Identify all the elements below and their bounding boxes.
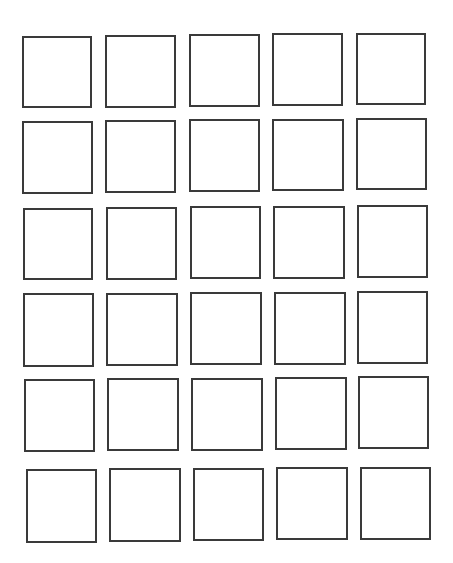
square-r4-c3 — [190, 292, 262, 365]
square-r6-c3 — [193, 468, 264, 541]
square-r4-c4 — [274, 292, 346, 365]
square-r4-c5 — [357, 291, 428, 364]
square-r3-c3 — [190, 206, 261, 279]
square-r6-c2 — [109, 468, 181, 542]
square-r3-c5 — [357, 205, 428, 278]
square-r5-c3 — [191, 378, 263, 451]
square-r1-c1 — [22, 36, 92, 108]
square-r4-c2 — [106, 293, 178, 366]
square-r2-c4 — [272, 119, 344, 191]
square-r3-c2 — [106, 207, 177, 280]
square-r1-c3 — [189, 34, 260, 107]
square-grid — [0, 0, 453, 563]
square-r1-c5 — [356, 33, 426, 105]
square-r1-c4 — [272, 33, 343, 106]
square-r2-c2 — [105, 120, 176, 193]
square-r2-c5 — [356, 118, 427, 190]
square-r6-c4 — [276, 467, 348, 540]
square-r2-c1 — [22, 121, 93, 194]
square-r1-c2 — [105, 35, 176, 108]
square-r6-c5 — [360, 467, 431, 540]
square-r5-c1 — [24, 379, 95, 452]
square-r2-c3 — [189, 119, 260, 192]
square-r5-c2 — [107, 378, 179, 451]
square-r6-c1 — [26, 469, 97, 543]
square-r5-c4 — [275, 377, 347, 450]
square-r3-c4 — [273, 206, 345, 279]
square-r3-c1 — [23, 208, 93, 280]
square-r4-c1 — [23, 293, 94, 367]
square-r5-c5 — [358, 376, 429, 449]
